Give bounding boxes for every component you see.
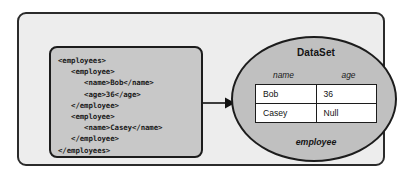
cell-name: Bob — [256, 85, 317, 104]
table-name-caption: employee — [233, 137, 399, 147]
column-header-age: age — [316, 70, 381, 80]
xml-source-code: <employees> <employee> <name>Bob</name> … — [51, 48, 201, 156]
table-row: Casey Null — [256, 104, 377, 123]
cell-age: 36 — [316, 85, 377, 104]
column-header-name: name — [251, 70, 316, 80]
table-row: Bob 36 — [256, 85, 377, 104]
diagram-container: <employees> <employee> <name>Bob</name> … — [17, 12, 385, 166]
cell-age: Null — [316, 104, 377, 123]
employee-data-table: Bob 36 Casey Null — [255, 84, 377, 123]
dataset-title: DataSet — [233, 47, 399, 58]
xml-source-box: <employees> <employee> <name>Bob</name> … — [49, 46, 203, 158]
dataset-ellipse: DataSet name age Bob 36 Casey Null em — [231, 36, 397, 162]
column-header-row: name age — [251, 70, 381, 80]
cell-name: Casey — [256, 104, 317, 123]
xml-to-dataset-diagram: <employees> <employee> <name>Bob</name> … — [0, 0, 401, 179]
